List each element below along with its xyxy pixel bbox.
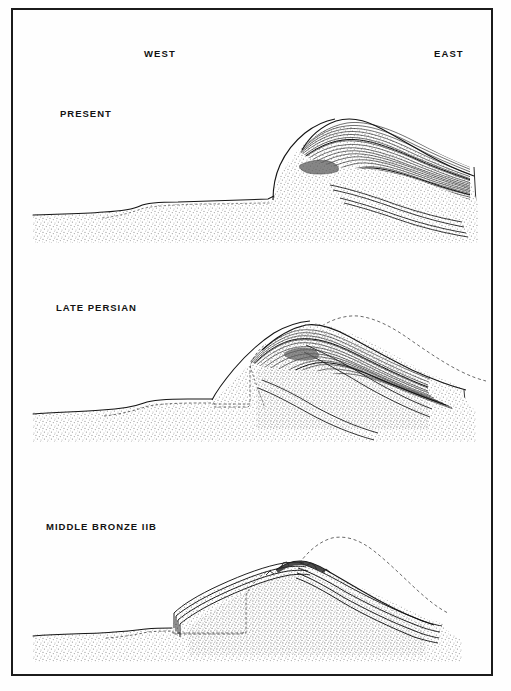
- middle-bronze-east-ground-fill: [440, 626, 462, 662]
- figure-root: WEST EAST PRESENT LATE PERSIAN MIDDLE BR…: [0, 0, 511, 691]
- late-persian-east-ground-fill: [460, 392, 476, 442]
- panel-late-persian: [33, 316, 486, 442]
- cross-section-drawings: [0, 0, 511, 691]
- middle-bronze-core-fill: [188, 569, 426, 655]
- panel-middle-bronze-iib: [33, 537, 462, 662]
- middle-bronze-substrate-fill: [90, 632, 172, 662]
- present-east-ground-fill: [470, 180, 478, 243]
- panel-present: [33, 119, 495, 243]
- middle-bronze-west-apron-fill: [33, 639, 90, 662]
